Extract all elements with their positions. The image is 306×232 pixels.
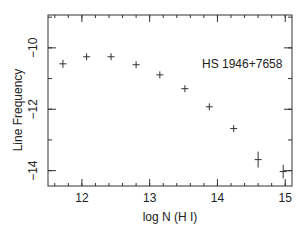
x-tick-label: 14 [211,191,225,205]
axis-ticks [48,15,292,186]
x-tick-label: 12 [75,191,89,205]
data-point [133,61,140,68]
data-points [59,53,286,178]
x-tick-label: 13 [143,191,157,205]
data-point [280,165,287,179]
data-point [181,85,188,92]
line-frequency-chart: 12131415−10−12−14 HS 1946+7658 log N (H … [0,0,306,232]
axes-box [48,15,292,186]
data-point [230,125,237,132]
data-point [156,71,163,78]
x-tick-label: 15 [279,191,293,205]
data-point [108,53,115,60]
data-point [59,60,66,68]
y-tick-label: −14 [26,160,40,181]
y-tick-label: −12 [26,99,40,120]
y-axis-label: Line Frequency [11,69,25,152]
y-tick-label: −10 [26,37,40,58]
data-point [206,103,213,110]
source-annotation: HS 1946+7658 [202,57,283,71]
plot-frame [48,15,292,186]
x-axis-label: log N (H I) [143,210,198,224]
data-point [83,53,90,60]
data-point [255,152,262,168]
